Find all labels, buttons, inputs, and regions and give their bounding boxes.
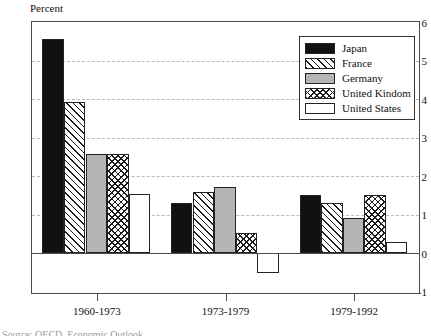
legend-swatch-icon xyxy=(305,88,335,99)
legend-item-label: United Kindom xyxy=(342,87,411,99)
bar xyxy=(257,253,279,272)
legend-item-label: Germany xyxy=(342,72,383,84)
bar xyxy=(321,203,343,253)
legend-swatch-icon xyxy=(305,103,335,114)
legend-swatch-icon xyxy=(305,58,335,69)
bar xyxy=(300,195,322,253)
bar xyxy=(343,218,365,253)
bar xyxy=(386,242,408,253)
bar xyxy=(42,39,64,253)
legend-item: Japan xyxy=(305,41,409,55)
y-axis-title: Percent xyxy=(30,2,63,14)
source-note: Source: OECD, Economic Outlook xyxy=(2,329,242,336)
x-tick-mark xyxy=(354,294,355,301)
bar xyxy=(171,203,193,253)
legend-item: United Kindom xyxy=(305,86,409,100)
bar-chart: Percent 6 5 4 3 2 1 0 -1 1960-1973 1973-… xyxy=(0,0,431,336)
legend-item: United States xyxy=(305,101,409,115)
bar xyxy=(107,154,129,253)
legend-item-label: Japan xyxy=(342,42,367,54)
bar xyxy=(236,233,258,253)
legend-item: France xyxy=(305,56,409,70)
bar xyxy=(129,194,151,253)
legend-item: Germany xyxy=(305,71,409,85)
bar xyxy=(193,192,215,254)
x-tick-mark xyxy=(97,294,98,301)
legend-item-label: United States xyxy=(342,102,401,114)
gridline xyxy=(32,138,419,139)
legend-swatch-icon xyxy=(305,43,335,54)
legend-item-label: France xyxy=(342,57,372,69)
bar xyxy=(214,187,236,253)
chart-legend: JapanFranceGermanyUnited KindomUnited St… xyxy=(299,36,415,120)
zero-baseline xyxy=(32,253,419,254)
bar xyxy=(64,102,86,253)
x-tick-label: 1973-1979 xyxy=(202,305,250,317)
x-tick-label: 1960-1973 xyxy=(73,305,121,317)
bar xyxy=(86,154,108,253)
legend-swatch-icon xyxy=(305,73,335,84)
x-tick-label: 1979-1992 xyxy=(330,305,378,317)
x-tick-mark xyxy=(226,294,227,301)
bar xyxy=(364,195,386,253)
